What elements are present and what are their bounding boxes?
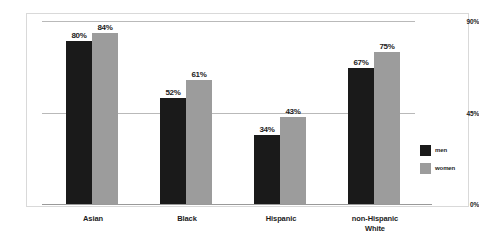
bar-black-men xyxy=(160,98,186,204)
bar-non-hispanic-white-women xyxy=(374,52,400,205)
bar-label-hispanic-men: 34% xyxy=(247,125,287,134)
gridline-0-baseline xyxy=(42,204,432,205)
bar-label-non-hispanic-white-men: 67% xyxy=(341,58,381,67)
bar-hispanic-men xyxy=(254,135,280,204)
plot-area: 80% 84% 52% 61% 34% 43% 67% 75% xyxy=(42,21,415,204)
bar-group-black: 52% 61% xyxy=(160,21,214,204)
bar-group-non-hispanic-white: 67% 75% xyxy=(348,21,402,204)
bar-label-black-men: 52% xyxy=(153,88,193,97)
bar-label-black-women: 61% xyxy=(179,70,219,79)
bar-group-hispanic: 34% 43% xyxy=(254,21,308,204)
bar-group-asian: 80% 84% xyxy=(66,21,120,204)
x-label-non-hispanic-white: non-Hispanic White xyxy=(315,214,435,233)
legend-swatch-women-icon xyxy=(420,163,431,174)
bar-black-women xyxy=(186,80,212,204)
bar-asian-men xyxy=(66,41,92,204)
bar-non-hispanic-white-men xyxy=(348,68,374,204)
bar-label-non-hispanic-white-women: 75% xyxy=(367,42,407,51)
y-tick-0: 0% xyxy=(449,201,479,208)
legend-swatch-men-icon xyxy=(420,145,431,156)
x-label-non-hispanic-white-line2: White xyxy=(315,224,435,234)
bar-chart: 90% 45% 0% 80% 84% 52% 61% 34% 43% xyxy=(0,0,479,249)
y-tick-90: 90% xyxy=(449,18,479,25)
bar-label-hispanic-women: 43% xyxy=(273,107,313,116)
bar-asian-women xyxy=(92,33,118,204)
bar-label-asian-women: 84% xyxy=(85,23,125,32)
legend-label-men: men xyxy=(435,147,447,153)
y-tick-45: 45% xyxy=(449,110,479,117)
legend-label-women: women xyxy=(435,165,455,171)
bar-label-asian-men: 80% xyxy=(59,31,99,40)
x-label-non-hispanic-white-line1: non-Hispanic xyxy=(315,214,435,224)
